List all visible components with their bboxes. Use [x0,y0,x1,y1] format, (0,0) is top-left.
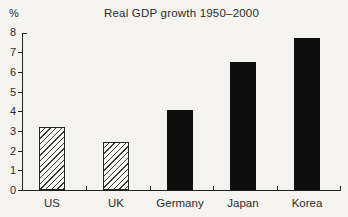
bar-uk [103,142,129,190]
x-boundary-tick [277,186,278,190]
y-tick [18,52,22,53]
category-label-japan: Japan [211,197,275,209]
y-tick [18,190,22,191]
category-label-uk: UK [84,197,148,209]
y-tick [18,170,22,171]
category-label-germany: Germany [148,197,212,209]
y-tick [18,92,22,93]
y-axis-unit-label: % [9,7,19,19]
x-axis-end-cap [340,186,341,191]
y-tick-label: 0 [2,185,16,196]
chart-title: Real GDP growth 1950–2000 [22,7,341,19]
bar-us [39,127,65,190]
y-tick [18,72,22,73]
y-tick-label: 2 [2,146,16,157]
y-tick-label: 1 [2,165,16,176]
y-tick-label: 5 [2,87,16,98]
y-tick-label: 3 [2,126,16,137]
y-tick [18,131,22,132]
y-tick-label: 7 [2,47,16,58]
gdp-growth-bar-chart: % Real GDP growth 1950–2000 012345678USU… [0,0,348,217]
bar-korea [294,38,320,190]
bar-japan [230,62,256,190]
y-tick-label: 4 [2,106,16,117]
y-tick [18,111,22,112]
y-axis-end-cap [22,33,27,34]
y-tick-label: 6 [2,67,16,78]
category-label-korea: Korea [275,197,339,209]
category-label-us: US [20,197,84,209]
y-tick-label: 8 [2,27,16,38]
y-tick [18,151,22,152]
bar-germany [167,110,193,190]
y-axis-line [22,33,23,191]
x-boundary-tick [213,186,214,190]
x-boundary-tick [86,186,87,190]
x-axis-line [22,190,341,191]
x-boundary-tick [150,186,151,190]
